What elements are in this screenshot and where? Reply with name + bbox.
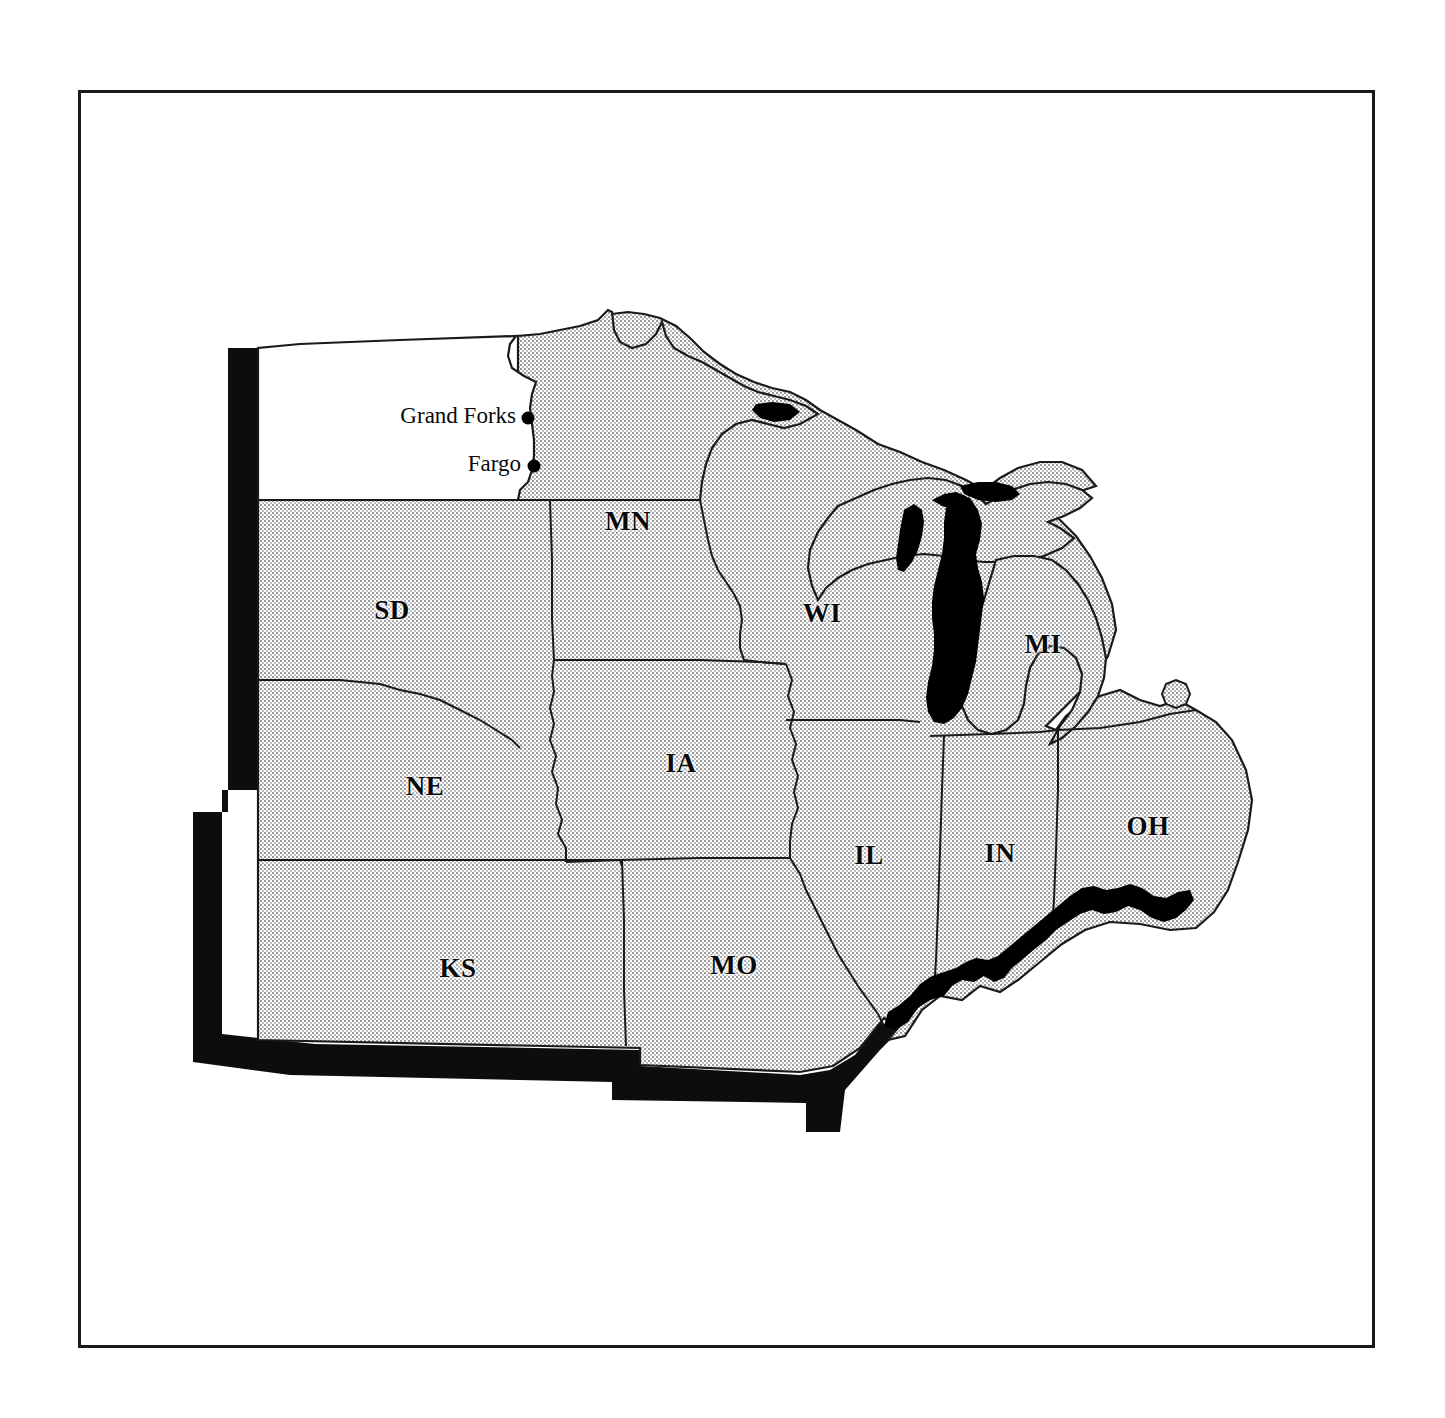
city-dot-grand-forks [522,412,535,425]
state-label-mn: MN [605,506,651,537]
state-label-sd: SD [374,595,410,626]
state-label-wi: WI [803,598,842,629]
state-label-mo: MO [710,950,758,981]
state-label-ia: IA [665,748,696,779]
state-label-ks: KS [439,953,476,984]
state-label-mi: MI [1025,629,1062,660]
city-label-fargo: Fargo [468,451,521,477]
figure-frame-border [78,90,1375,1348]
city-label-grand-forks: Grand Forks [400,403,516,429]
state-label-oh: OH [1126,811,1169,842]
city-dot-fargo [528,460,541,473]
state-label-ne: NE [406,771,445,802]
state-label-in: IN [984,838,1015,869]
figure-page: MN SD WI MI IA NE OH IL IN MO KS Grand F… [0,0,1445,1418]
state-label-il: IL [854,840,884,871]
